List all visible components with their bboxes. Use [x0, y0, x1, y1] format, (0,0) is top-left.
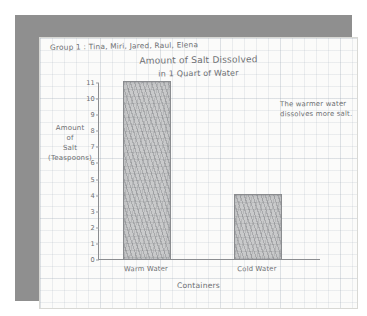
- y-tick-mark: [96, 99, 99, 100]
- y-tick-mark: [96, 195, 99, 196]
- y-axis-title-line-4: (Teaspoons): [44, 153, 96, 163]
- y-tick-mark: [96, 163, 99, 164]
- y-tick-label: 0: [91, 257, 95, 264]
- y-tick-mark: [96, 115, 99, 116]
- y-tick-mark: [96, 243, 99, 244]
- y-tick-label: 10: [86, 96, 95, 103]
- y-tick-label: 6: [91, 160, 95, 167]
- y-tick-label: 1: [91, 241, 95, 248]
- y-tick-label: 4: [91, 192, 95, 199]
- y-tick-label: 7: [91, 144, 95, 151]
- chart-title-block: Amount of Salt Dissolved in 1 Quart of W…: [40, 55, 357, 78]
- y-tick-mark: [96, 147, 99, 148]
- bar-warm-water[interactable]: [123, 81, 171, 260]
- y-tick-mark: [96, 131, 99, 132]
- y-axis-title: Amount of Salt (Teaspoons): [44, 123, 96, 163]
- y-tick-label: 8: [91, 128, 95, 135]
- x-category-label: Cold Water: [237, 265, 276, 273]
- y-tick-mark: [96, 211, 99, 212]
- handwritten-bar-chart-poster: Group 1 : Tina, Miri, Jared, Raul, Elena…: [0, 0, 367, 316]
- y-axis-title-line-3: Salt: [44, 143, 96, 153]
- graph-paper: Group 1 : Tina, Miri, Jared, Raul, Elena…: [39, 37, 358, 309]
- bar-cold-water[interactable]: [234, 194, 282, 260]
- x-category-label: Warm Water: [123, 265, 167, 274]
- poster-frame: Group 1 : Tina, Miri, Jared, Raul, Elena…: [15, 15, 352, 301]
- y-tick-mark: [96, 227, 99, 228]
- y-axis-title-line-1: Amount: [44, 123, 96, 133]
- y-axis-line: [98, 83, 99, 260]
- conclusion-note: The warmer water dissolves more salt.: [280, 100, 356, 120]
- x-axis-title: Containers: [40, 281, 357, 290]
- y-tick-label: 3: [91, 208, 95, 215]
- y-axis-title-line-2: of: [44, 133, 96, 143]
- y-tick-mark: [96, 83, 99, 84]
- y-tick-mark: [96, 179, 99, 180]
- y-tick-label: 2: [91, 225, 95, 232]
- y-tick-label: 5: [91, 176, 95, 183]
- y-tick-label: 9: [91, 112, 95, 119]
- y-tick-label: 11: [86, 80, 95, 87]
- y-tick-mark: [96, 260, 99, 261]
- chart-title: Amount of Salt Dissolved: [40, 53, 357, 67]
